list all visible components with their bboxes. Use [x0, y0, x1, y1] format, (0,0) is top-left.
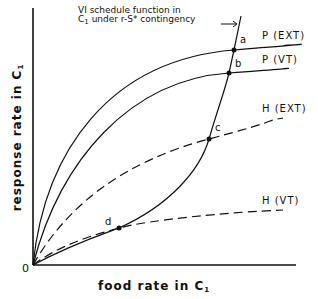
point-label-d: d [105, 216, 112, 227]
origin-label: 0 [22, 262, 30, 275]
diagram: VI schedule function in C1 under r-S* co… [0, 0, 318, 299]
x-axis-label-sub: 1 [204, 286, 210, 294]
point-label-b: b [235, 58, 242, 69]
label-h-ext: H (EXT) [262, 103, 307, 114]
curve-p-ext [33, 44, 301, 265]
point-label-c: c [215, 122, 221, 133]
x-axis-label-text: food rate in [98, 279, 189, 293]
point-a [232, 48, 237, 53]
curve-p-vt [33, 68, 289, 265]
y-axis-label-c: C [10, 70, 24, 80]
annotation-line2: C1 under r-S* contingency [78, 15, 195, 27]
y-axis-label-text: response rate in [10, 85, 24, 212]
diagram-canvas [0, 0, 318, 299]
x-axis-label-c: C [194, 279, 204, 293]
vi-annotation: VI schedule function in C1 under r-S* co… [78, 6, 195, 27]
y-axis-label: response rate in C1 [10, 63, 25, 213]
label-p-ext: P (EXT) [262, 30, 305, 41]
curve-h-ext [33, 118, 283, 265]
point-d [117, 226, 122, 231]
annotation-line2-text: under r-S* contingency [89, 14, 196, 24]
x-axis-label: food rate in C1 [98, 279, 210, 294]
label-p-vt: P (VT) [262, 54, 298, 65]
point-b [227, 71, 232, 76]
label-h-vt: H (VT) [262, 195, 299, 206]
point-c [207, 137, 212, 142]
curve-h-vt [33, 210, 283, 265]
point-label-a: a [240, 34, 247, 45]
y-axis-label-sub: 1 [17, 64, 25, 70]
